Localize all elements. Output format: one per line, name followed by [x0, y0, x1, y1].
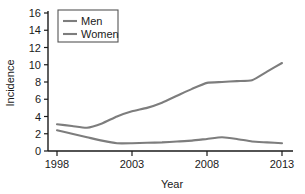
chart-canvas: 0246810121416 1998200320082013 Incidence… — [0, 0, 305, 194]
y-tick-label: 10 — [29, 59, 41, 71]
x-axis-title: Year — [161, 178, 184, 190]
y-tick-label: 8 — [35, 76, 41, 88]
x-tick-label: 2008 — [195, 158, 219, 170]
y-axis-title: Incidence — [4, 59, 16, 106]
data-series-group — [57, 63, 282, 143]
x-tick-label: 2003 — [120, 158, 144, 170]
y-tick-label: 16 — [29, 7, 41, 19]
x-tick-label: 1998 — [45, 158, 69, 170]
y-axis-ticks: 0246810121416 — [29, 7, 48, 157]
y-tick-label: 2 — [35, 128, 41, 140]
x-tick-label: 2013 — [270, 158, 294, 170]
y-tick-label: 4 — [35, 111, 41, 123]
y-tick-label: 12 — [29, 42, 41, 54]
series-line-women — [57, 130, 282, 143]
series-line-men — [57, 63, 282, 128]
x-axis-ticks: 1998200320082013 — [45, 151, 294, 170]
incidence-trend-chart: 0246810121416 1998200320082013 Incidence… — [0, 0, 305, 194]
y-tick-label: 0 — [35, 145, 41, 157]
y-tick-label: 6 — [35, 93, 41, 105]
legend-label-men: Men — [81, 15, 102, 27]
y-tick-label: 14 — [29, 24, 41, 36]
legend-label-women: Women — [81, 28, 119, 40]
chart-legend[interactable]: Men Women — [58, 10, 119, 42]
